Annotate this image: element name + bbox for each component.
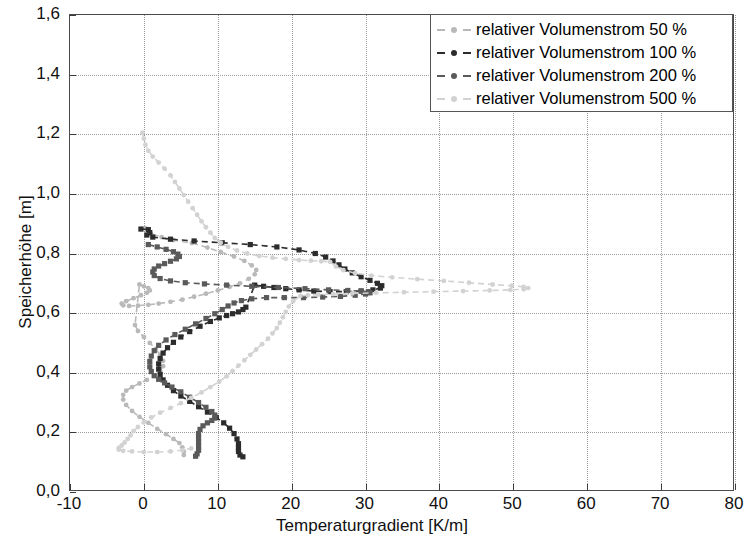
data-point-marker [204, 291, 209, 296]
data-point-marker [192, 238, 197, 243]
data-point-marker [302, 286, 307, 291]
data-point-marker [161, 350, 166, 355]
data-point-marker [236, 363, 241, 368]
data-point-marker [230, 311, 235, 316]
data-point-marker [249, 263, 254, 268]
data-point-marker [174, 256, 179, 261]
y-axis-tick-label: 0,2 [4, 421, 60, 441]
x-axis-tick-label: 50 [503, 494, 522, 514]
data-point-marker [199, 219, 204, 224]
data-point-marker [199, 390, 204, 395]
data-point-marker [187, 329, 192, 334]
data-point-marker [193, 321, 198, 326]
data-point-marker [147, 359, 152, 364]
data-point-marker [165, 345, 170, 350]
data-point-marker [162, 166, 167, 171]
series-3 [146, 242, 373, 459]
data-point-marker [232, 254, 237, 259]
legend-item-2[interactable]: relativer Volumenstrom 100 % [436, 41, 727, 64]
data-point-marker [155, 426, 160, 431]
data-point-marker [231, 300, 236, 305]
legend-item-1[interactable]: relativer Volumenstrom 50 % [436, 18, 727, 41]
y-axis-tick-label: 1,6 [4, 4, 60, 24]
data-point-marker [363, 291, 368, 296]
data-point-marker [242, 259, 247, 264]
data-point-marker [205, 245, 210, 250]
data-point-marker [136, 425, 141, 430]
data-point-marker [215, 288, 220, 293]
data-point-marker [254, 268, 259, 273]
data-point-marker [183, 327, 188, 332]
data-point-marker [177, 441, 182, 446]
data-point-marker [334, 264, 339, 269]
legend-item-4[interactable]: relativer Volumenstrom 500 % [436, 87, 727, 110]
data-point-marker [296, 247, 301, 252]
data-point-marker [236, 309, 241, 314]
data-point-marker [186, 199, 191, 204]
data-point-marker [152, 273, 157, 278]
data-point-marker [121, 448, 126, 453]
data-point-marker [156, 263, 161, 268]
data-point-marker [415, 277, 420, 282]
data-point-marker [133, 323, 138, 328]
data-point-marker [146, 242, 151, 247]
legend-line-sample-icon [436, 47, 474, 59]
data-point-marker [235, 248, 240, 253]
data-point-marker [173, 180, 178, 185]
data-point-marker [350, 291, 355, 296]
data-point-marker [189, 395, 194, 400]
data-point-marker [162, 261, 167, 266]
data-point-marker [136, 303, 141, 308]
data-point-marker [203, 316, 208, 321]
legend-line-sample-icon [436, 93, 474, 105]
data-point-marker [195, 212, 200, 217]
data-point-marker [375, 281, 380, 286]
data-point-marker [121, 397, 126, 402]
data-point-marker [161, 364, 166, 369]
data-point-marker [323, 254, 328, 259]
data-point-marker [270, 331, 275, 336]
data-point-marker [204, 225, 209, 230]
data-point-marker [218, 250, 223, 255]
data-point-marker [156, 301, 161, 306]
data-point-marker [193, 454, 198, 459]
legend-line-sample-icon [436, 24, 474, 36]
data-point-marker [205, 410, 210, 415]
x-axis-tick-label: 0 [138, 494, 147, 514]
data-point-marker [249, 296, 254, 301]
data-point-marker [202, 281, 207, 286]
chart-root: -10010203040506070800,00,20,40,60,81,01,… [0, 0, 744, 540]
data-point-marker [141, 420, 146, 425]
y-axis-tick-label: 0,0 [4, 481, 60, 501]
data-point-marker [224, 313, 229, 318]
data-point-marker [226, 245, 231, 250]
data-point-marker [168, 278, 173, 283]
data-point-marker [152, 373, 157, 378]
data-point-marker [147, 341, 152, 346]
data-point-marker [149, 353, 154, 358]
y-axis-tick-label: 1,4 [4, 64, 60, 84]
data-point-marker [313, 251, 318, 256]
y-axis-tick [70, 492, 76, 493]
data-point-marker [328, 259, 333, 264]
data-point-marker [297, 258, 302, 263]
legend-line-sample-icon [436, 70, 474, 82]
data-point-marker [276, 285, 281, 290]
data-point-marker [116, 447, 121, 452]
data-point-marker [306, 293, 311, 298]
data-point-marker [197, 324, 202, 329]
data-point-marker [190, 206, 195, 211]
data-point-marker [217, 315, 222, 320]
data-point-marker [270, 255, 275, 260]
legend-item-3[interactable]: relativer Volumenstrom 200 % [436, 64, 727, 87]
data-point-marker [146, 148, 151, 153]
data-point-marker [431, 289, 436, 294]
x-axis-tick [735, 484, 736, 490]
data-point-marker [242, 358, 247, 363]
data-point-marker [163, 247, 168, 252]
data-point-marker [124, 403, 129, 408]
data-point-marker [467, 280, 472, 285]
data-point-marker [127, 304, 132, 309]
x-axis-tick-label: 30 [355, 494, 374, 514]
x-axis-tick-label: 20 [281, 494, 300, 514]
